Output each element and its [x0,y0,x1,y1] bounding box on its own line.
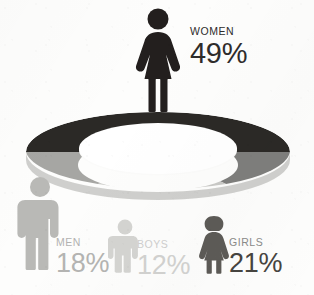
category-name-girls: GIRLS [229,237,282,248]
label-girls: GIRLS 21% [229,237,282,277]
label-men: MEN 18% [56,237,109,277]
label-boys: BOYS 12% [137,239,190,279]
donut-inner-hole-shade [79,123,237,174]
label-women: WOMEN 49% [190,26,247,68]
category-value-girls: 21% [229,250,282,277]
category-name-women: WOMEN [190,26,247,37]
infographic-canvas: WOMEN 49% MEN 18% BOYS 12% GIRLS 21% [0,0,314,295]
category-value-women: 49% [190,39,247,68]
category-name-boys: BOYS [137,239,190,250]
category-name-men: MEN [56,237,109,248]
girl-pictogram-icon [197,216,231,274]
category-value-boys: 12% [137,252,190,279]
woman-pictogram-icon [133,7,183,113]
category-value-men: 18% [56,250,109,277]
